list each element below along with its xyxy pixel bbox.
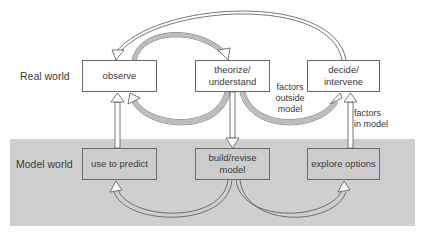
node-observe: observe bbox=[82, 60, 157, 92]
node-decide: decide/ intervene bbox=[307, 60, 380, 92]
arrowhead-observe-top bbox=[112, 50, 124, 60]
node-build: build/revise model bbox=[195, 148, 270, 180]
node-build-line1: build/revise bbox=[208, 152, 256, 164]
node-build-line2: model bbox=[220, 164, 246, 176]
node-explore-label: explore options bbox=[311, 158, 375, 170]
node-theorize-line1: theorize/ bbox=[214, 64, 250, 76]
node-decide-line2: intervene bbox=[324, 76, 363, 88]
node-predict-label: use to predict bbox=[91, 158, 148, 170]
node-theorize: theorize/ understand bbox=[195, 60, 270, 92]
arrowhead-explore bbox=[338, 181, 350, 192]
annotation-factors-outside-model: factors outside model bbox=[272, 82, 308, 115]
node-decide-line1: decide/ bbox=[328, 64, 359, 76]
node-theorize-line2: understand bbox=[209, 76, 257, 88]
annotation-factors-in-model: factors in model bbox=[354, 108, 394, 130]
arrow-build-to-explore bbox=[236, 180, 342, 213]
node-observe-label: observe bbox=[103, 70, 137, 82]
arrowhead-theorize-top bbox=[218, 48, 230, 60]
node-explore: explore options bbox=[307, 148, 380, 180]
node-predict: use to predict bbox=[82, 148, 157, 180]
real-world-label: Real world bbox=[20, 70, 70, 82]
model-world-label: Model world bbox=[16, 158, 73, 170]
arrowhead-predict bbox=[110, 181, 122, 192]
